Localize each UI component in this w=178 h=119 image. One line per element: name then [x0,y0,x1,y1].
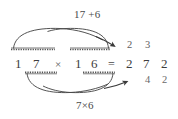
right-operand-digit-2: 6 [91,57,98,70]
left-operand-digit-1: 1 [15,57,22,70]
result-digit-1: 2 [126,57,133,70]
bottom-annotation-label: 7×6 [76,100,94,111]
carry-digit-2: 3 [145,40,150,51]
figure-canvas: 17 +6 1 7 × 1 6 = 2 7 2 2 3 4 2 7×6 [0,0,178,119]
bottom-arrow [104,82,126,89]
underline-left-mark [25,72,57,73]
result-digit-2: 7 [143,57,150,70]
lower-digit-1: 4 [145,75,150,86]
lower-digit-2: 2 [162,75,167,86]
equals-sign: = [108,58,115,70]
top-annotation-label: 17 +6 [74,9,100,20]
arc-bottom-right [43,73,113,92]
arc-top-left [14,28,103,48]
overline-left-mark [11,48,55,50]
result-digit-3: 2 [161,57,168,70]
overline-right-mark [70,48,110,50]
arc-bottom-left [27,73,108,92]
right-operand-digit-1: 1 [75,57,82,70]
underline-right-mark [83,72,115,73]
multiply-sign: × [55,59,61,70]
arc-top-right [48,28,109,48]
carry-digit-1: 2 [127,40,132,51]
left-operand-digit-2: 7 [33,57,40,70]
top-arrow [96,37,114,46]
